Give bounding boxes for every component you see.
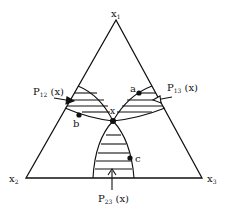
vertex-label-x3: x3 bbox=[207, 173, 217, 185]
region-p23 bbox=[93, 121, 134, 178]
point-a bbox=[136, 90, 141, 95]
region-label-p23: P23 (x) bbox=[98, 193, 129, 205]
region-label-p13: P13 (x) bbox=[167, 82, 198, 94]
region-p12 bbox=[65, 86, 113, 121]
point-label-c: c bbox=[135, 153, 141, 164]
point-c bbox=[127, 155, 132, 160]
point-label-a: a bbox=[130, 83, 136, 94]
point-label-b: b bbox=[73, 118, 79, 129]
arrow-p23 bbox=[108, 169, 116, 190]
arrow-p13 bbox=[153, 96, 172, 103]
vertex-label-x1: x1 bbox=[111, 8, 120, 20]
vertex-label-x2: x2 bbox=[9, 173, 19, 185]
simplex-diagram: x1 x2 x3 P12 (x) P13 (x) P23 (x) x a b c bbox=[0, 0, 225, 209]
point-label-x: x bbox=[110, 106, 115, 116]
point-b bbox=[76, 112, 81, 117]
simplex-triangle bbox=[26, 20, 202, 178]
point-x bbox=[110, 118, 116, 124]
region-label-p12: P12 (x) bbox=[33, 86, 64, 98]
